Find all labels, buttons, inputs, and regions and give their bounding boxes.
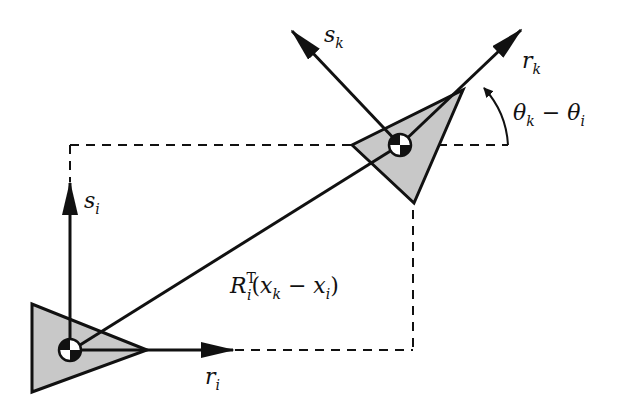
relative-position-line xyxy=(80,145,400,345)
axis-s-k xyxy=(292,31,400,145)
label-s-i: si xyxy=(84,188,100,217)
label-r-i: ri xyxy=(205,364,220,393)
robot-i-body xyxy=(32,304,147,392)
axis-r-k xyxy=(400,30,521,145)
center-of-mass-icon-i xyxy=(59,339,81,361)
angle-arc xyxy=(484,88,508,145)
dashed-projection-lines xyxy=(70,145,508,350)
label-s-k: sk xyxy=(324,22,344,51)
robot-i xyxy=(32,304,147,392)
label-r-k: rk xyxy=(522,48,541,77)
pose-diagram: si ri sk rk θk − θi RTi(xk − xi) xyxy=(0,0,624,413)
label-angle: θk − θi xyxy=(513,100,585,129)
label-relative-vector: RTi(xk − xi) xyxy=(229,270,339,303)
center-of-mass-icon-k xyxy=(389,134,411,156)
